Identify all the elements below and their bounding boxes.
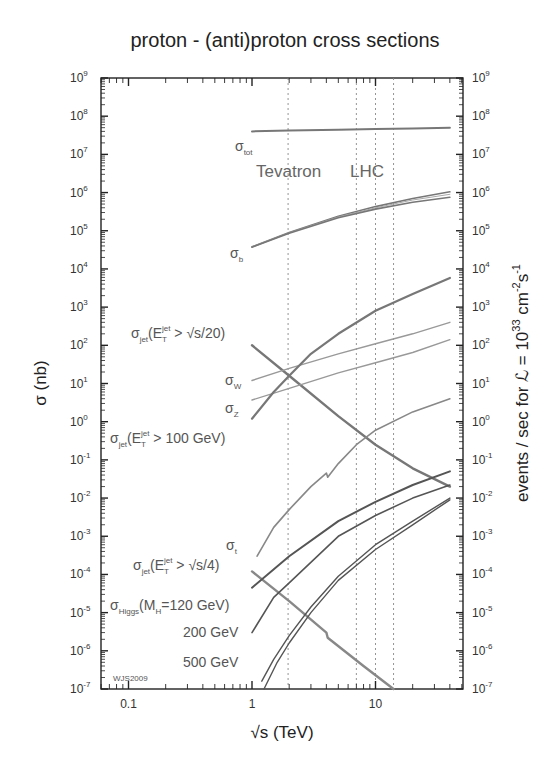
y-tick-label: 10-5 (70, 604, 91, 620)
y2-tick-label: 108 (472, 107, 490, 123)
y-axis-label: σ (nb) (31, 360, 50, 405)
curve-label: σtot (235, 138, 253, 157)
y-tick-label: 10-3 (70, 527, 91, 543)
y2-tick-label: 10-3 (472, 527, 493, 543)
curve-label: σW (225, 372, 242, 391)
curve-label: σjet(ETjet > √s/20) (131, 324, 225, 344)
y-tick-label: 109 (70, 69, 88, 85)
y-tick-label: 10-1 (70, 451, 91, 467)
y-tick-label: 106 (70, 184, 88, 200)
y-tick-label: 10-4 (70, 565, 91, 581)
y2-axis-label: events / sec for ℒ = 1033 cm-2s-1 (510, 264, 532, 502)
x-tick-label: 1 (249, 697, 256, 711)
y2-tick-label: 106 (472, 184, 490, 200)
y-tick-label: 107 (70, 145, 88, 161)
y-tick-label: 105 (70, 222, 88, 238)
tevatron-label: Tevatron (256, 162, 321, 181)
curve-label: σZ (225, 400, 239, 419)
curve (262, 498, 450, 681)
y2-tick-label: 102 (472, 336, 490, 352)
curve-labels: σtotσbσjet(ETjet > √s/20)σWσZσjet(ETjet … (110, 138, 253, 670)
curve-label: 200 GeV (183, 624, 239, 640)
x-tick-label: 0.1 (120, 697, 137, 711)
curve-label: σt (226, 537, 238, 556)
y2-tick-label: 10-5 (472, 604, 493, 620)
cross-section-chart: proton - (anti)proton cross sections σto… (0, 0, 550, 783)
x-axis-label: √s (TeV) (250, 723, 313, 742)
y2-tick-label: 10-1 (472, 451, 493, 467)
y-tick-label: 108 (70, 107, 88, 123)
curve-label: 500 GeV (183, 654, 239, 670)
y2-tick-label: 100 (472, 413, 490, 429)
y2-tick-label: 107 (472, 145, 490, 161)
y2-tick-label: 10-7 (472, 680, 493, 696)
y-tick-label: 100 (70, 413, 88, 429)
y-tick-label: 104 (70, 260, 88, 276)
y2-tick-label: 104 (472, 260, 490, 276)
y2-tick-label: 10-4 (472, 565, 493, 581)
credit-label: WJS2009 (113, 674, 148, 683)
y2-tick-label: 103 (472, 298, 490, 314)
curve (252, 485, 450, 633)
y2-tick-label: 101 (472, 375, 490, 391)
curve-label: σjet(ETjet > 100 GeV) (110, 429, 225, 449)
curve-label: σjet(ETjet > √s/4) (133, 556, 219, 576)
chart-title: proton - (anti)proton cross sections (130, 29, 439, 51)
curves (252, 128, 450, 689)
curve (252, 278, 450, 419)
curve (252, 197, 450, 247)
y-tick-label: 10-6 (70, 642, 91, 658)
y2-tick-label: 105 (472, 222, 490, 238)
y2-tick-label: 109 (472, 69, 490, 85)
y2-tick-label: 10-2 (472, 489, 493, 505)
curve (252, 192, 450, 247)
x-tick-label: 10 (369, 697, 383, 711)
y-tick-label: 103 (70, 298, 88, 314)
y-tick-label: 101 (70, 375, 88, 391)
y2-tick-label: 10-6 (472, 642, 493, 658)
curve-label: σHiggs(MH=120 GeV) (110, 597, 229, 616)
curve (252, 128, 450, 132)
y-tick-label: 10-7 (70, 680, 91, 696)
curve-label: σb (230, 245, 244, 264)
curve (252, 345, 450, 486)
curve (257, 399, 450, 557)
lhc-label: LHC (350, 162, 384, 181)
svg-text:events / sec for ℒ = 1033 cm-2: events / sec for ℒ = 1033 cm-2s-1 (510, 264, 532, 502)
y-tick-label: 10-2 (70, 489, 91, 505)
y-tick-label: 102 (70, 336, 88, 352)
curve (252, 194, 450, 247)
curve (252, 322, 450, 380)
